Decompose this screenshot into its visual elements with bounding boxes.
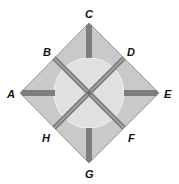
label-b: B [43, 46, 51, 58]
label-a: A [6, 88, 15, 100]
label-f: F [128, 132, 135, 144]
label-e: E [164, 88, 172, 100]
label-d: D [127, 46, 135, 58]
stub-c [86, 25, 92, 58]
diagram-canvas: C B D A E H F G [0, 0, 179, 184]
stub-a [22, 90, 55, 96]
stub-g [86, 128, 92, 161]
stub-e [124, 90, 157, 96]
label-g: G [85, 168, 94, 180]
label-h: H [42, 132, 51, 144]
center-point [87, 91, 91, 95]
label-c: C [85, 8, 94, 20]
